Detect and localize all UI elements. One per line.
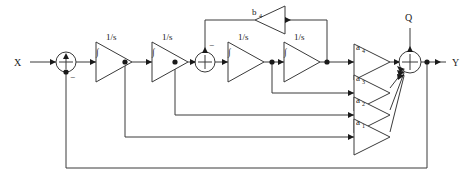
gain-a4-label: a bbox=[356, 42, 360, 52]
output-label-y: Y bbox=[452, 57, 459, 68]
feedforward-summing-diagonals bbox=[390, 70, 404, 132]
gain-a2-label: a bbox=[356, 95, 360, 105]
gain-a1-subscript: 1 bbox=[362, 123, 365, 129]
block-diagram-canvas: ∫ 1/s ∫ 1/s ∫ 1/s ∫ 1/s b 4 a 4 bbox=[0, 0, 469, 178]
integrator-4: ∫ 1/s bbox=[283, 32, 320, 82]
integrator-3: ∫ 1/s bbox=[227, 32, 264, 82]
integrator-1-label: 1/s bbox=[106, 32, 117, 42]
gain-b4-label: b bbox=[252, 7, 257, 17]
integrator-2-label: 1/s bbox=[162, 32, 173, 42]
integrator-4-label: 1/s bbox=[294, 32, 305, 42]
quantization-label-q: Q bbox=[405, 12, 413, 23]
gain-a1-label: a bbox=[356, 117, 360, 127]
gain-a3-subscript: 3 bbox=[362, 79, 365, 85]
summer-1-negative-sign: − bbox=[70, 72, 75, 82]
gain-b4-subscript: 4 bbox=[259, 13, 262, 19]
signal-flow-diagram: ∫ 1/s ∫ 1/s ∫ 1/s ∫ 1/s b 4 a 4 bbox=[0, 0, 469, 178]
integrator-1: ∫ 1/s bbox=[95, 32, 132, 82]
gain-a2-subscript: 2 bbox=[362, 101, 365, 107]
gain-b4: b 4 bbox=[252, 6, 285, 34]
input-label-x: X bbox=[14, 57, 22, 68]
gain-a3-label: a bbox=[356, 73, 360, 83]
integrator-3-label: 1/s bbox=[238, 32, 249, 42]
gain-a4-subscript: 4 bbox=[362, 48, 365, 54]
summer-2-negative-sign: − bbox=[209, 40, 214, 50]
integrator-2: ∫ 1/s bbox=[151, 32, 188, 82]
